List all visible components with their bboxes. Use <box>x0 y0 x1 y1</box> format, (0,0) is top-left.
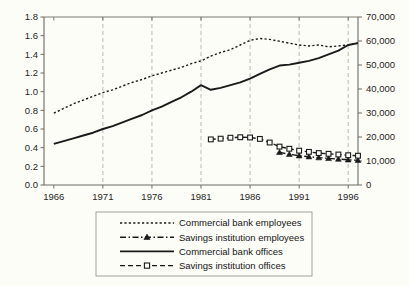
y-tick-label-right: 10,000 <box>366 155 395 166</box>
marker-open-square <box>277 144 282 149</box>
y-tick-label-left: 0.2 <box>25 161 38 172</box>
x-tick-label: 1981 <box>190 191 211 202</box>
marker-open-square <box>336 152 341 157</box>
marker-open-square <box>208 137 213 142</box>
marker-open-square <box>356 153 361 158</box>
y-tick-label-right: 50,000 <box>366 59 395 70</box>
x-tick-label: 1976 <box>141 191 162 202</box>
legend-label-savings-institution-employees: Savings institution employees <box>179 232 304 243</box>
legend-label-commercial-bank-offices: Commercial bank offices <box>179 246 283 257</box>
x-tick-label: 1986 <box>239 191 260 202</box>
y-tick-label-left: 1.6 <box>25 30 38 41</box>
x-tick-label: 1971 <box>92 191 113 202</box>
marker-open-square <box>248 135 253 140</box>
marker-open-square <box>307 149 312 154</box>
y-tick-label-left: 0.4 <box>25 142 38 153</box>
marker-open-square <box>238 135 243 140</box>
dual-axis-line-chart: 0.00.20.40.60.81.01.21.41.61.8010,00020,… <box>0 0 409 286</box>
y-tick-label-left: 0.8 <box>25 105 38 116</box>
legend-label-commercial-bank-employees: Commercial bank employees <box>179 217 302 228</box>
y-tick-label-left: 0.0 <box>25 179 38 190</box>
x-tick-label: 1966 <box>43 191 64 202</box>
marker-open-square <box>326 151 331 156</box>
legend-label-savings-institution-offices: Savings institution offices <box>179 260 286 271</box>
y-tick-label-right: 30,000 <box>366 107 395 118</box>
chart-container: 0.00.20.40.60.81.01.21.41.61.8010,00020,… <box>0 0 409 286</box>
y-tick-label-left: 1.4 <box>25 49 38 60</box>
y-tick-label-left: 0.6 <box>25 123 38 134</box>
marker-open-square <box>218 136 223 141</box>
x-tick-label: 1996 <box>338 191 359 202</box>
y-tick-label-right: 40,000 <box>366 83 395 94</box>
x-tick-label: 1991 <box>289 191 310 202</box>
y-tick-label-right: 70,000 <box>366 11 395 22</box>
y-tick-label-left: 1.0 <box>25 86 38 97</box>
chart-legend: Commercial bank employeesSavings institu… <box>96 212 312 276</box>
y-tick-label-left: 1.8 <box>25 11 38 22</box>
y-tick-label-left: 1.2 <box>25 67 38 78</box>
marker-open-square <box>257 137 262 142</box>
marker-open-square <box>287 146 292 151</box>
legend-marker-open-square <box>144 263 149 268</box>
marker-open-square <box>316 151 321 156</box>
marker-open-square <box>297 148 302 153</box>
y-tick-label-right: 60,000 <box>366 35 395 46</box>
y-tick-label-right: 20,000 <box>366 131 395 142</box>
y-tick-label-right: 0 <box>366 179 371 190</box>
marker-open-square <box>346 153 351 158</box>
marker-open-square <box>228 135 233 140</box>
marker-open-square <box>267 140 272 145</box>
